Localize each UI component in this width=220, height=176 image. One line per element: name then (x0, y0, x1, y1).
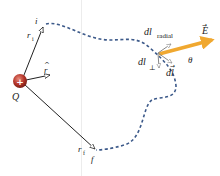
electric-field-arrow-accent: → (202, 21, 207, 28)
charge-sign: + (16, 77, 24, 87)
r-final-sub: f (83, 150, 85, 156)
r-initial-sub: i (32, 36, 34, 42)
dl-perp-sub: ⊥ (149, 64, 156, 72)
dl-perp-vector (158, 53, 159, 68)
dl-perp-label: dl (138, 56, 146, 67)
r-initial-label: r (27, 30, 31, 40)
r-final-label: r (78, 144, 82, 154)
r-hat-caret: ^ (44, 61, 50, 69)
integration-path (46, 23, 176, 150)
angle-theta-label: θ (188, 55, 193, 65)
line-integral-diagram: + Q r ^ i r i r f f E → dl radial dl ⊥ d… (0, 0, 220, 176)
dl-radial-sub: radial (157, 32, 173, 40)
charge-label: Q (12, 91, 20, 102)
dl-radial-label: dl (144, 26, 152, 37)
r-final-vector (24, 84, 95, 149)
initial-point-label: i (35, 16, 38, 26)
dl-arrow-accent: → (170, 62, 175, 69)
r-hat-vector (26, 75, 50, 80)
r-initial-vector (22, 27, 43, 80)
final-point-label: f (91, 154, 95, 164)
